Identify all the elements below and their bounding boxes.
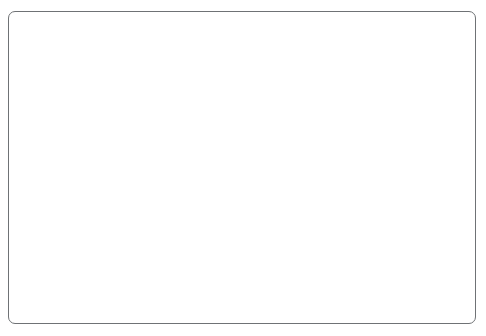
chart-figure: 0.01.02.03.04.05.06.0 051015202530 Curve… [0, 0, 486, 336]
figure-border [8, 11, 476, 324]
